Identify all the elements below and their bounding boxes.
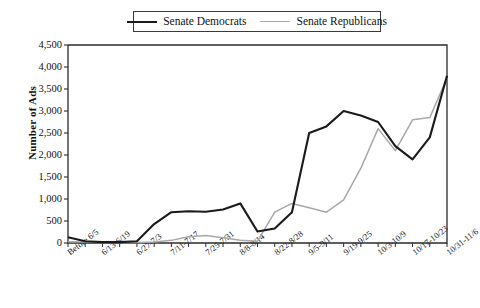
series-line-republicans [68,78,447,243]
series-line-democrats [68,76,447,242]
